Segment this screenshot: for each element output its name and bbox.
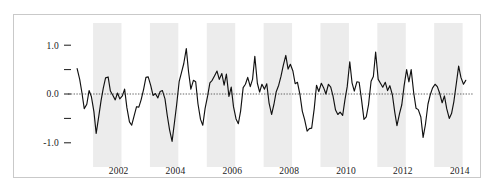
year-band (207, 23, 235, 167)
y-tick-label: 0.0 (47, 89, 60, 99)
x-tick-label: 2002 (109, 166, 129, 176)
year-band (434, 23, 462, 167)
y-tick-label: 1.0 (47, 41, 60, 51)
shaded-year-bands (93, 23, 463, 167)
year-band (320, 23, 348, 167)
y-tick-label: -1.0 (43, 138, 59, 148)
year-band (377, 23, 405, 167)
timeseries-chart: 1.00.0-1.0 2002200420062008201020122014 (14, 15, 480, 177)
x-tick-label: 2012 (393, 166, 413, 176)
x-tick-label: 2014 (450, 166, 470, 176)
plot-area: 1.00.0-1.0 2002200420062008201020122014 (14, 15, 480, 177)
x-tick-label: 2010 (336, 166, 356, 176)
x-axis-tick-labels: 2002200420062008201020122014 (109, 166, 470, 176)
chart-figure: 1.00.0-1.0 2002200420062008201020122014 (13, 14, 481, 178)
y-axis-ticks: 1.00.0-1.0 (43, 41, 71, 149)
x-tick-label: 2004 (166, 166, 186, 176)
x-tick-label: 2006 (222, 166, 242, 176)
x-tick-label: 2008 (279, 166, 299, 176)
